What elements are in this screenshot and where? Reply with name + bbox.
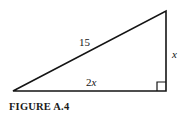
right-angle-marker-icon — [157, 82, 166, 91]
base-leg-label: 2x — [86, 77, 96, 88]
figure-container: 15 x 2x FIGURE A.4 — [0, 0, 190, 122]
vertical-leg-label: x — [172, 49, 177, 60]
figure-caption: FIGURE A.4 — [9, 101, 69, 112]
base-leg-variable: x — [92, 76, 97, 88]
hypotenuse-label: 15 — [79, 37, 90, 48]
